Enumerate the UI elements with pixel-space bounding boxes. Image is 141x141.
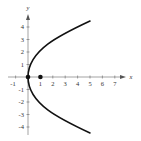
y-tick-label: 4 — [21, 23, 25, 30]
y-tick-label: 2 — [21, 48, 24, 55]
y-tick-label: 3 — [21, 36, 24, 43]
x-tick-label: 7 — [113, 80, 117, 87]
y-axis-arrow-icon — [26, 14, 30, 20]
y-axis-label: y — [26, 4, 30, 11]
x-tick-label: 2 — [51, 80, 54, 87]
y-tick-label: -4 — [19, 123, 25, 130]
x-tick-label: 3 — [64, 80, 67, 87]
x-tick-label: 1 — [39, 80, 42, 87]
vertex-point — [26, 75, 31, 80]
y-tick-label: -1 — [19, 86, 24, 93]
focus-point — [38, 75, 43, 80]
y-tick-label: -2 — [19, 98, 24, 105]
x-axis-arrow-icon — [120, 75, 126, 79]
x-tick-label: -1 — [10, 80, 15, 87]
x-tick-label: 4 — [76, 80, 80, 87]
x-axis-label: x — [129, 73, 133, 80]
x-tick-label: 6 — [101, 80, 105, 87]
parabola-diagram: -1 1 2 3 4 5 6 7 4 3 2 1 -1 -2 -3 -4 x y — [0, 0, 141, 141]
y-tick-label: -3 — [19, 111, 24, 118]
y-tick-label: 1 — [21, 61, 24, 68]
x-tick-label: 5 — [88, 80, 91, 87]
